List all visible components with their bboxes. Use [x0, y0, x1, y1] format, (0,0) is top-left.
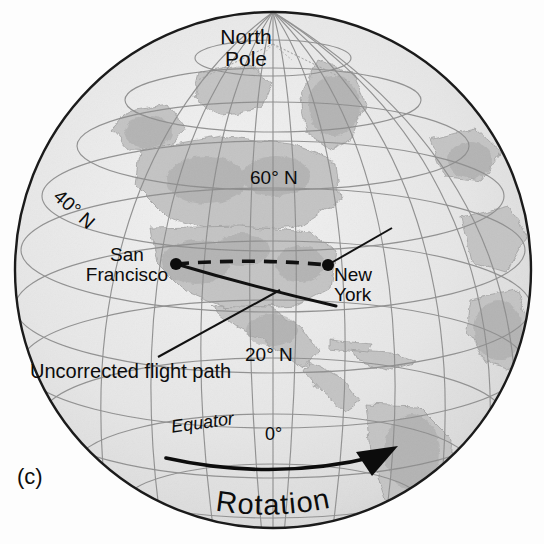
equator-value-label: 0°	[265, 425, 282, 444]
north-pole-label: NorthPole	[220, 26, 271, 70]
san-francisco-dot	[170, 258, 182, 270]
san-francisco-line2: Francisco	[86, 264, 168, 285]
rotation-arrow-head	[356, 446, 398, 476]
annotation-layer: Rotation	[0, 0, 544, 544]
latitude-20-label: 20° N	[245, 345, 293, 365]
globe-figure: Rotation NorthPole 60° N 40° N 20° N San…	[0, 0, 544, 544]
intended-flight-path-dashed	[176, 261, 328, 265]
san-francisco-label: SanFrancisco	[86, 245, 168, 285]
rotation-label: Rotation	[214, 482, 333, 521]
new-york-dot	[322, 259, 334, 271]
new-york-label: NewYork	[334, 265, 372, 305]
new-york-line1: New	[334, 264, 372, 285]
uncorrected-flight-path-label: Uncorrected flight path	[30, 361, 231, 382]
new-york-line2: York	[334, 284, 371, 305]
san-francisco-line1: San	[110, 244, 144, 265]
north-pole-line2: Pole	[225, 47, 267, 70]
latitude-60-label: 60° N	[250, 168, 298, 188]
uncorrected-flight-path-curve	[176, 264, 336, 306]
rotation-arrow-arc	[166, 456, 378, 470]
new-york-leader-line	[331, 228, 392, 263]
north-pole-line1: North	[220, 25, 271, 48]
panel-label: (c)	[17, 466, 43, 489]
